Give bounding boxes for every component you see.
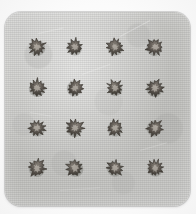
specimen-r3c2	[65, 118, 86, 139]
specimen-r1c4	[145, 37, 166, 58]
specimen-r3c4	[145, 118, 165, 138]
specimen-r3c3	[105, 118, 125, 138]
specimen-grid	[0, 0, 196, 214]
specimen-r2c3	[106, 79, 125, 98]
specimen-r2c4	[145, 78, 166, 99]
photograph: specimen-plate	[0, 0, 196, 214]
specimen-r4c4	[145, 158, 165, 178]
specimen-r4c2	[65, 158, 86, 179]
specimen-r2c2	[65, 78, 85, 98]
specimen-r2c1	[27, 78, 48, 99]
specimen-r1c3	[105, 37, 125, 57]
specimen-r4c3	[105, 158, 125, 178]
specimen-r3c1	[27, 118, 47, 138]
specimen-r1c1	[27, 37, 48, 58]
specimen-r4c1	[27, 158, 48, 179]
specimen-r1c2	[65, 37, 85, 57]
